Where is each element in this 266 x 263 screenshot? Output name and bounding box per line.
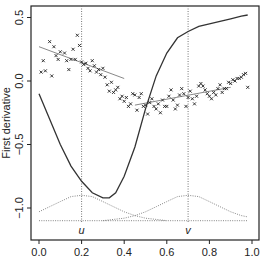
data-point bbox=[91, 59, 94, 62]
data-point bbox=[65, 59, 68, 62]
data-point bbox=[157, 102, 160, 105]
data-point bbox=[159, 111, 162, 114]
data-point bbox=[44, 69, 47, 72]
x-tick-label: 1.0 bbox=[244, 246, 259, 258]
data-point bbox=[125, 96, 128, 99]
plot-frame bbox=[31, 6, 259, 240]
data-point bbox=[150, 97, 153, 100]
y-axis: 0.50.0−0.5−1.0 bbox=[13, 10, 31, 219]
data-point bbox=[89, 69, 92, 72]
data-point bbox=[116, 86, 119, 89]
data-point bbox=[167, 95, 170, 98]
data-point bbox=[110, 81, 113, 84]
data-point bbox=[219, 83, 222, 86]
data-point bbox=[146, 113, 149, 116]
data-point bbox=[184, 105, 187, 108]
first-derivative-chart: uv 0.00.20.40.60.81.0 0.50.0−0.5−1.0 Fir… bbox=[0, 0, 266, 263]
data-point bbox=[170, 88, 173, 91]
data-point bbox=[59, 50, 62, 53]
data-point bbox=[221, 91, 224, 94]
data-point bbox=[135, 109, 138, 112]
data-point bbox=[93, 64, 96, 67]
data-point bbox=[72, 48, 75, 51]
data-point bbox=[204, 88, 207, 91]
data-point bbox=[40, 71, 43, 74]
x-tick-label: 0.6 bbox=[159, 246, 174, 258]
data-point bbox=[108, 90, 111, 93]
data-point bbox=[182, 92, 185, 95]
data-point bbox=[195, 95, 198, 98]
data-point bbox=[176, 104, 179, 107]
marker-label-u: u bbox=[79, 224, 85, 236]
data-point bbox=[202, 85, 205, 88]
y-tick-label: −0.5 bbox=[13, 134, 25, 156]
x-tick-label: 0.2 bbox=[74, 246, 89, 258]
data-point bbox=[129, 102, 132, 105]
data-point bbox=[104, 76, 107, 79]
data-point bbox=[140, 92, 143, 95]
data-point bbox=[106, 83, 109, 86]
data-point bbox=[193, 102, 196, 105]
x-tick-label: 0.4 bbox=[117, 246, 132, 258]
y-tick-label: 0.5 bbox=[13, 10, 25, 25]
data-point bbox=[123, 100, 126, 103]
data-point bbox=[76, 34, 79, 37]
data-point bbox=[138, 96, 141, 99]
data-point bbox=[165, 105, 168, 108]
data-point bbox=[210, 97, 213, 100]
data-point bbox=[155, 107, 158, 110]
data-point bbox=[50, 74, 53, 77]
data-point bbox=[101, 67, 104, 70]
data-point bbox=[246, 86, 249, 89]
x-tick-label: 0.8 bbox=[202, 246, 217, 258]
x-tick-label: 0.0 bbox=[31, 246, 46, 258]
data-point bbox=[63, 52, 66, 55]
kernel-weight-at-v-line bbox=[103, 195, 248, 220]
series-layer bbox=[39, 15, 248, 221]
y-tick-label: 0.0 bbox=[13, 73, 25, 88]
data-point bbox=[178, 93, 181, 96]
y-tick-label: −1.0 bbox=[13, 197, 25, 219]
data-point bbox=[191, 97, 194, 100]
kernel-weight-at-u-line bbox=[39, 195, 167, 220]
data-point bbox=[214, 93, 217, 96]
data-point bbox=[172, 99, 175, 102]
y-axis-title: First derivative bbox=[0, 87, 12, 159]
data-point bbox=[180, 87, 183, 90]
data-point bbox=[57, 58, 60, 61]
data-point bbox=[174, 107, 177, 110]
marker-label-v: v bbox=[185, 224, 192, 236]
data-point bbox=[48, 40, 51, 43]
x-axis: 0.00.20.40.60.81.0 bbox=[31, 240, 259, 258]
data-point bbox=[67, 68, 70, 71]
data-point bbox=[78, 44, 81, 47]
data-point bbox=[55, 54, 58, 57]
data-point bbox=[99, 73, 102, 76]
data-point bbox=[42, 59, 45, 62]
data-point bbox=[189, 90, 192, 93]
data-point bbox=[52, 45, 55, 48]
data-point bbox=[121, 95, 124, 98]
